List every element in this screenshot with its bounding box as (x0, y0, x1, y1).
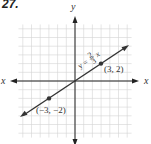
x-axis-left-arrow-icon (10, 79, 17, 84)
svg-text:y =: y = (76, 57, 90, 71)
point-neg3-neg2 (47, 96, 51, 100)
x-axis-label-right: x (143, 75, 149, 86)
point-3-2 (99, 61, 103, 65)
y-axis-down-arrow-icon (73, 139, 78, 144)
x-axis-label-left: x (0, 75, 6, 86)
x-axis-right-arrow-icon (132, 79, 139, 84)
y-axis-label: y (70, 1, 76, 12)
equation-label: y = 2 3 x (74, 46, 104, 73)
point-label-neg3-neg2: (−3, −2) (36, 105, 66, 115)
y-axis-up-arrow-icon (73, 16, 78, 23)
point-label-3-2: (3, 2) (104, 64, 124, 74)
coordinate-plane: x x y (3, 2) (−3, −2) y = 2 3 x (0, 0, 151, 144)
